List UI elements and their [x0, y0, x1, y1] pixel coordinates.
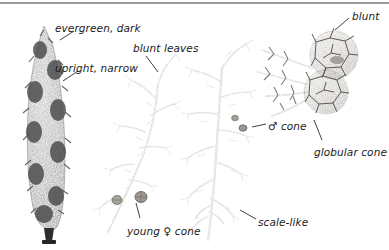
- leader-blunt-leaves: [146, 56, 158, 72]
- specimen-cone-cluster: [258, 28, 358, 116]
- label-upright-narrow: upright, narrow: [55, 62, 138, 74]
- label-blunt: blunt: [352, 10, 380, 22]
- label-scale-like: scale-like: [258, 216, 308, 228]
- leader-young-female-cone: [136, 203, 140, 218]
- male-cone-tips: [232, 115, 247, 131]
- botanical-figure: evergreen, dark upright, narrow blunt le…: [0, 0, 389, 250]
- label-globular-cone: globular cone: [314, 146, 387, 158]
- leader-blunt: [335, 18, 349, 30]
- leader-male-cone: [252, 124, 266, 127]
- specimen-foliage-spray-left: [94, 49, 182, 232]
- label-young-female-cone: young ♀ cone: [127, 225, 201, 237]
- illustration-artwork: [0, 0, 389, 250]
- specimen-foliage-spray-right: [181, 40, 256, 240]
- leader-globular-cone: [314, 120, 322, 140]
- leader-scale-like: [240, 210, 256, 219]
- label-blunt-leaves: blunt leaves: [133, 42, 199, 54]
- label-male-cone: ♂ cone: [268, 120, 307, 132]
- specimen-columnar-tree: [23, 26, 71, 244]
- label-evergreen-dark: evergreen, dark: [55, 22, 141, 34]
- young-female-cone-bud: [112, 192, 147, 205]
- leader-lines: [60, 18, 349, 219]
